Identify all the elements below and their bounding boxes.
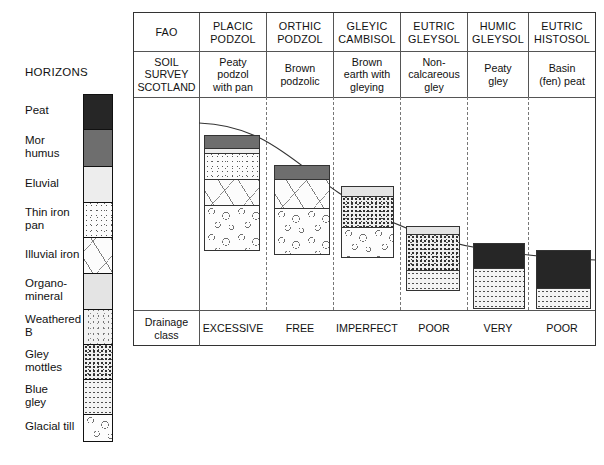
legend-label-thin-iron-pan: Thin ironpan bbox=[25, 206, 70, 232]
catena-table-frame: FAO PLACICPODZOL ORTHICPODZOL GLEYICCAMB… bbox=[133, 12, 596, 346]
horizon-layer-mor-humus bbox=[275, 166, 329, 180]
legend-swatch-weathered-b bbox=[84, 310, 112, 345]
header-sss-col-2: Brownpodzolic bbox=[267, 52, 333, 97]
horizon-layer-illuvial-iron bbox=[275, 180, 329, 209]
legend-swatch-thin-iron-pan bbox=[84, 203, 112, 238]
legend-swatch-organo-mineral bbox=[84, 274, 112, 310]
drainage-col-5: VERY bbox=[468, 311, 528, 346]
header-sss-col-5: Peatygley bbox=[468, 52, 528, 97]
header-fao-label: FAO bbox=[134, 14, 199, 51]
header-sss-col-3: Brownearth withgleying bbox=[334, 52, 400, 97]
legend-title: HORIZONS bbox=[25, 66, 88, 78]
header-rule-2 bbox=[134, 97, 595, 98]
legend-label-weathered-b: WeatheredB bbox=[25, 313, 81, 339]
legend-swatch-gley-mottles bbox=[84, 345, 112, 380]
header-fao-col-4: EUTRICGLEYSOL bbox=[401, 14, 467, 51]
header-sss-col-4: Non-calcareousgley bbox=[401, 52, 467, 97]
divider-4 bbox=[467, 97, 468, 310]
legend-swatch-illuvial-iron bbox=[84, 238, 112, 274]
legend-label-blue-gley: Bluegley bbox=[25, 383, 48, 409]
header-fao-col-3: GLEYICCAMBISOL bbox=[334, 14, 400, 51]
legend-swatch-blue-gley bbox=[84, 380, 112, 415]
horizons-legend: HORIZONS PeatMorhumusEluvialThin ironpan… bbox=[0, 0, 128, 465]
horizon-layer-blue-gley bbox=[537, 289, 590, 309]
legend-label-eluvial: Eluvial bbox=[25, 177, 59, 190]
humic-gleysol-profile bbox=[473, 243, 525, 309]
horizon-layer-organo-mineral bbox=[342, 187, 393, 197]
drainage-col-4: POOR bbox=[401, 311, 467, 346]
legend-swatch-mor-humus bbox=[84, 130, 112, 167]
drainage-col-3: IMPERFECT bbox=[334, 311, 400, 346]
placic-podzol-profile bbox=[204, 135, 260, 251]
legend-swatch-peat bbox=[84, 95, 112, 130]
horizon-layer-blue-gley bbox=[474, 269, 524, 309]
divider-2 bbox=[333, 97, 334, 310]
legend-label-peat: Peat bbox=[25, 104, 49, 117]
legend-label-gley-mottles: Gleymottles bbox=[25, 348, 62, 374]
horizon-layer-blue-gley bbox=[407, 271, 459, 291]
divider-3 bbox=[400, 97, 401, 310]
horizon-layer-gley-mottles bbox=[342, 197, 393, 228]
divider-1 bbox=[266, 97, 267, 310]
legend-label-mor-humus: Morhumus bbox=[25, 134, 60, 160]
horizon-layer-mor-humus bbox=[205, 136, 259, 149]
orthic-podzol-profile bbox=[274, 165, 330, 255]
horizon-layer-thin-iron-pan bbox=[205, 154, 259, 180]
legend-label-organo-mineral: Organo-mineral bbox=[25, 277, 67, 303]
horizon-layer-peat bbox=[474, 244, 524, 269]
label-col-rule bbox=[199, 97, 200, 346]
horizon-layer-peat bbox=[537, 251, 590, 289]
eutric-gleysol-profile bbox=[406, 226, 460, 291]
legend-label-illuvial-iron: Illuvial iron bbox=[25, 248, 79, 261]
drainage-col-1: EXCESSIVE bbox=[200, 311, 266, 346]
drainage-label: Drainageclass bbox=[134, 311, 199, 346]
header-sss-label: SOILSURVEYSCOTLAND bbox=[134, 52, 199, 97]
header-fao-col-2: ORTHICPODZOL bbox=[267, 14, 333, 51]
eutric-histosol-profile bbox=[536, 250, 591, 309]
horizon-layer-glacial-till bbox=[205, 206, 259, 251]
horizon-layer-illuvial-iron bbox=[205, 180, 259, 206]
legend-swatch-eluvial bbox=[84, 167, 112, 203]
soil-catena-diagram: HORIZONS PeatMorhumusEluvialThin ironpan… bbox=[0, 0, 604, 465]
horizon-layer-glacial-till bbox=[275, 209, 329, 255]
divider-5 bbox=[528, 97, 529, 310]
legend-label-glacial-till: Glacial till bbox=[25, 420, 74, 433]
header-fao-col-1: PLACICPODZOL bbox=[200, 14, 266, 51]
gleyic-cambisol-profile bbox=[341, 186, 394, 258]
header-sss-col-1: Peatypodzolwith pan bbox=[200, 52, 266, 97]
horizon-layer-glacial-till bbox=[342, 228, 393, 258]
horizon-layer-gley-mottles bbox=[407, 235, 459, 271]
drainage-col-6: POOR bbox=[529, 311, 595, 346]
header-fao-col-6: EUTRICHISTOSOL bbox=[529, 14, 595, 51]
header-sss-col-6: Basin(fen) peat bbox=[529, 52, 595, 97]
legend-swatch-glacial-till bbox=[84, 415, 112, 441]
legend-swatch-column bbox=[83, 94, 113, 442]
horizon-layer-organo-mineral bbox=[407, 227, 459, 235]
header-fao-col-5: HUMICGLEYSOL bbox=[468, 14, 528, 51]
drainage-col-2: FREE bbox=[267, 311, 333, 346]
